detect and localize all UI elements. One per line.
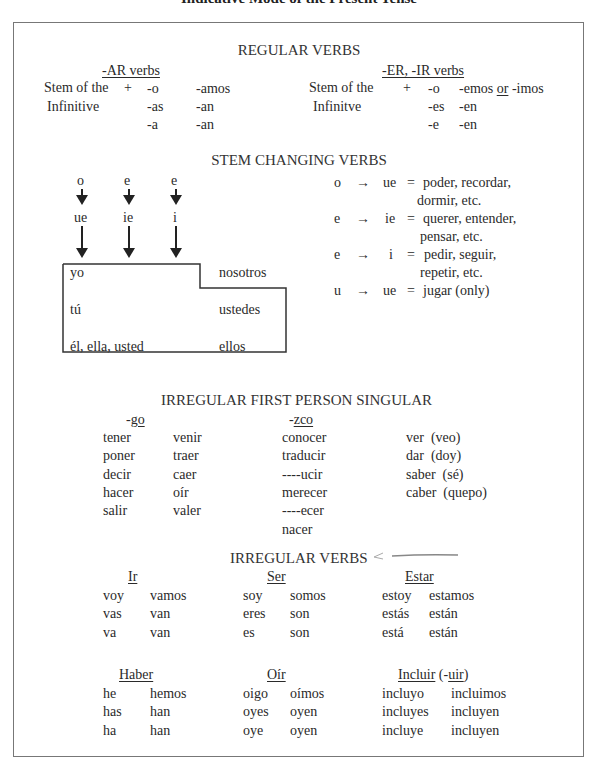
conjugation: van <box>150 626 170 640</box>
conjugation: incluye <box>382 724 423 738</box>
zco-verb: ----ucir <box>282 468 322 482</box>
verb-name-haber: Haber <box>119 668 153 682</box>
go-verb: valer <box>173 504 201 518</box>
conjugation: oye <box>243 724 263 738</box>
first-person-heading: IRREGULAR FIRST PERSON SINGULAR <box>161 393 432 408</box>
conjugation: ha <box>103 724 116 738</box>
conjugation: es <box>243 626 255 640</box>
conjugation: has <box>103 705 122 719</box>
go-verb: oír <box>173 486 189 500</box>
zco-label: -zco <box>289 413 313 427</box>
conjugation: voy <box>103 589 124 603</box>
conjugation: vas <box>103 607 122 621</box>
conjugation: oyen <box>290 724 317 738</box>
conjugation: estamos <box>429 589 474 603</box>
equals: = <box>407 212 415 226</box>
conjugation: incluyen <box>451 724 499 738</box>
conjugation: incluyen <box>451 705 499 719</box>
conjugation: han <box>150 724 170 738</box>
zco-verb: merecer <box>282 486 327 500</box>
equals: = <box>407 176 415 190</box>
person-tu: tú <box>70 303 81 317</box>
rule-to: ue <box>383 284 396 298</box>
boot-shape-outline <box>0 0 598 764</box>
equals: = <box>407 284 415 298</box>
verb-name-ir: Ir <box>128 570 137 584</box>
zco-verb: ----ecer <box>282 504 324 518</box>
paren-close: ) <box>464 667 469 682</box>
conjugation: está <box>382 626 404 640</box>
right-arrow-icon: → <box>356 248 370 262</box>
conjugation: estoy <box>382 589 412 603</box>
conjugation: va <box>103 626 116 640</box>
go-verb: venir <box>173 431 202 445</box>
verb-name-estar: Estar <box>405 570 434 584</box>
zco-verb: conocer <box>282 431 326 445</box>
rule-from: e <box>334 212 340 226</box>
rule-to: ue <box>383 176 396 190</box>
go-verb: poner <box>103 449 135 463</box>
conjugation: vamos <box>150 589 187 603</box>
conjugation: van <box>150 607 170 621</box>
person-ustedes: ustedes <box>219 303 260 317</box>
conjugation: incluyo <box>382 687 424 701</box>
rule-examples: pedir, seguir, <box>424 248 496 262</box>
uir-suffix: uir <box>448 667 464 682</box>
go-verb: caer <box>173 468 196 482</box>
person-yo: yo <box>70 266 84 280</box>
rule-examples: dormir, etc. <box>417 194 481 208</box>
conjugation: he <box>103 687 116 701</box>
go-label: -go <box>126 413 145 427</box>
conjugation: están <box>429 607 458 621</box>
irregular-verbs-heading: IRREGULAR VERBS <box>230 551 368 566</box>
conjugation: están <box>429 626 458 640</box>
rule-from: u <box>334 284 341 298</box>
go-verb: hacer <box>103 486 133 500</box>
other-verb: dar (doy) <box>406 449 461 463</box>
other-verb: saber (sé) <box>406 468 464 482</box>
go-verb: salir <box>103 504 127 518</box>
other-verb: ver (veo) <box>406 431 460 445</box>
verb-name-oir: Oír <box>267 668 286 682</box>
rule-examples: poder, recordar, <box>423 176 511 190</box>
conjugation: han <box>150 705 170 719</box>
incluir-word: Incluir <box>398 667 435 682</box>
conjugation: son <box>290 626 309 640</box>
conjugation: incluimos <box>451 687 506 701</box>
go-verb: tener <box>103 431 131 445</box>
other-verb: caber (quepo) <box>406 486 487 500</box>
verb-name-incluir: Incluir (-uir) <box>398 668 468 682</box>
conjugation: estás <box>382 607 409 621</box>
person-el-ella-usted: él, ella, usted <box>70 340 144 354</box>
conjugation: oigo <box>243 687 268 701</box>
rule-to: ie <box>385 212 395 226</box>
zco-verb: nacer <box>282 523 312 537</box>
go-verb: traer <box>173 449 199 463</box>
rule-examples: jugar (only) <box>423 284 489 298</box>
conjugation: oyes <box>243 705 269 719</box>
go-suffix: go <box>131 412 145 427</box>
conjugation: oyen <box>290 705 317 719</box>
right-arrow-icon: → <box>356 176 370 190</box>
zco-verb: traducir <box>282 449 326 463</box>
rule-examples: querer, entender, <box>423 212 516 226</box>
conjugation: son <box>290 607 309 621</box>
rule-to: i <box>389 248 393 262</box>
verb-name-ser: Ser <box>267 570 286 584</box>
conjugation: incluyes <box>382 705 429 719</box>
conjugation: oímos <box>290 687 324 701</box>
rule-from: e <box>334 248 340 262</box>
person-ellos: ellos <box>219 340 245 354</box>
right-arrow-icon: → <box>356 212 370 226</box>
conjugation: somos <box>290 589 326 603</box>
paren-open: (- <box>435 667 448 682</box>
go-verb: decir <box>103 468 131 482</box>
person-nosotros: nosotros <box>219 266 266 280</box>
rule-from: o <box>334 176 341 190</box>
right-arrow-icon: → <box>356 284 370 298</box>
conjugation: hemos <box>150 687 187 701</box>
rule-examples: repetir, etc. <box>420 266 483 280</box>
zco-suffix: zco <box>294 412 313 427</box>
conjugation: eres <box>243 607 266 621</box>
rule-examples: pensar, etc. <box>420 230 483 244</box>
